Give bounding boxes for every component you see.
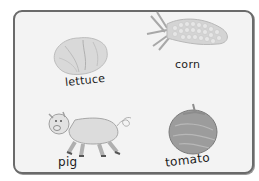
pig-label: pig <box>58 155 77 169</box>
corn-icon <box>143 10 233 54</box>
picture-card: lettuce corn pig <box>13 10 254 174</box>
pig-icon <box>35 108 130 158</box>
lettuce-label: lettuce <box>64 72 105 89</box>
tomato-icon <box>165 100 225 158</box>
corn-label: corn <box>175 58 200 71</box>
lettuce-icon <box>49 32 111 78</box>
